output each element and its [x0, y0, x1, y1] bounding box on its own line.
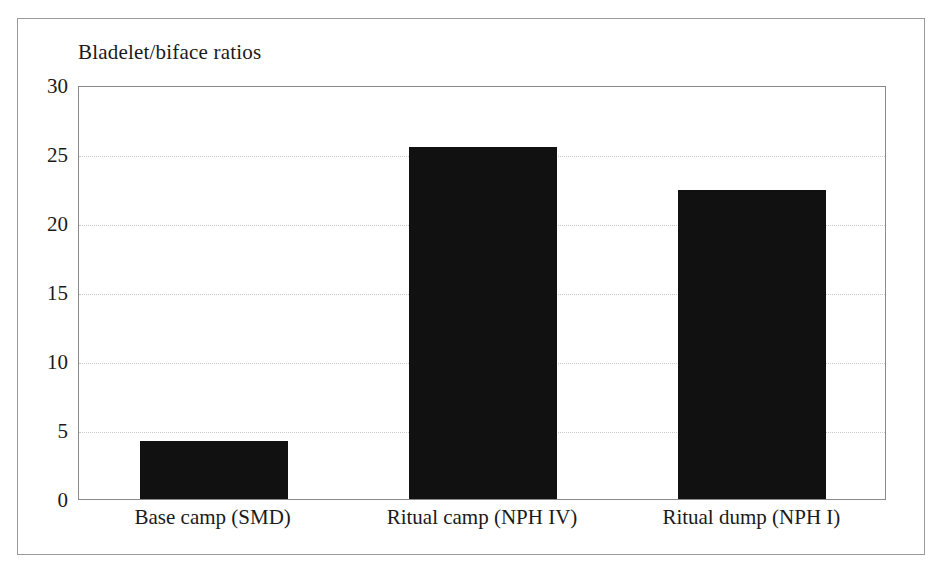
y-axis-tick-labels: 051015202530 [20, 86, 68, 500]
bar [140, 441, 288, 499]
y-tick-label: 30 [47, 74, 68, 99]
x-tick-label: Base camp (SMD) [135, 505, 291, 530]
bar [409, 147, 557, 499]
y-tick-label: 5 [58, 419, 69, 444]
y-tick-label: 0 [58, 488, 69, 513]
y-tick-label: 15 [47, 281, 68, 306]
x-tick-label: Ritual dump (NPH I) [662, 505, 840, 530]
figure: Bladelet/biface ratios 051015202530 Base… [0, 0, 943, 572]
bar [678, 190, 826, 499]
y-tick-label: 25 [47, 143, 68, 168]
plot-area [78, 86, 886, 500]
x-tick-label: Ritual camp (NPH IV) [387, 505, 578, 530]
y-tick-label: 10 [47, 350, 68, 375]
y-tick-label: 20 [47, 212, 68, 237]
chart-title: Bladelet/biface ratios [78, 40, 261, 65]
x-axis-tick-labels: Base camp (SMD)Ritual camp (NPH IV)Ritua… [78, 505, 886, 545]
bars-layer [79, 87, 885, 499]
